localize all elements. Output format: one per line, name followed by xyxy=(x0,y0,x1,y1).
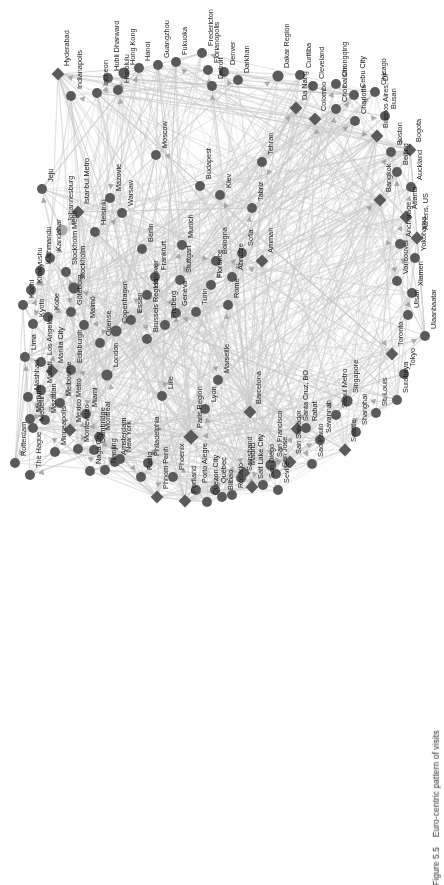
figure-caption-number: Figure 5.5 xyxy=(431,847,441,885)
figure-caption: Figure 5.5 Euro-centric pattern of visit… xyxy=(432,730,440,885)
figure-caption-text: Euro-centric pattern of visits xyxy=(431,730,441,837)
